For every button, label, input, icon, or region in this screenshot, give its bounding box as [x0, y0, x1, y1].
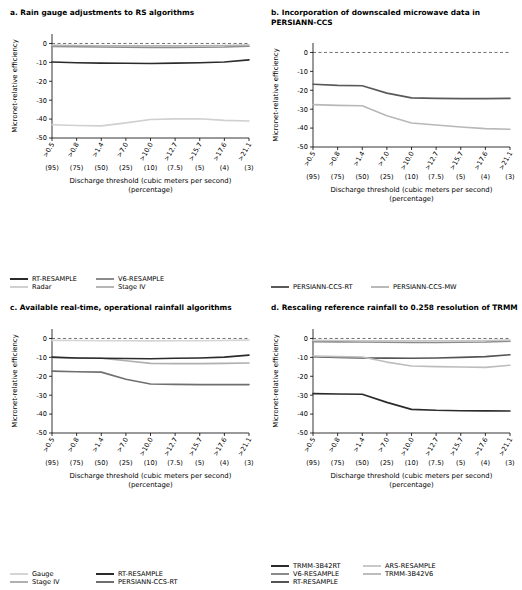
x-tick-label: >10.0 [399, 150, 416, 172]
y-tick-label: -50 [36, 429, 47, 437]
x-tick-sublabel: (3) [244, 164, 253, 172]
x-tick-label: >1.4 [91, 141, 106, 159]
y-tick-label: -50 [297, 429, 308, 437]
x-tick-label: >10.0 [138, 436, 155, 458]
legend-item: RT-RESAMPLE [96, 570, 181, 578]
y-tick-label: 0 [304, 334, 308, 342]
legend-item: Stage IV [96, 283, 166, 291]
panel-b-svg: 0-10-20-30-40-50Micronet-relative effici… [267, 31, 516, 221]
y-tick-label: -10 [297, 68, 308, 76]
legend-item: ARS-RESAMPLE [363, 562, 443, 570]
x-tick-label: >7.0 [376, 150, 391, 168]
x-tick-sublabel: (7.5) [167, 459, 183, 467]
legend-label: Radar [32, 283, 51, 291]
series-line-persiann-ccs-mw [313, 105, 510, 130]
x-tick-label: >21.1 [236, 141, 253, 163]
x-tick-sublabel: (4) [481, 459, 490, 467]
x-tick-sublabel: (7.5) [167, 164, 183, 172]
y-tick-label: -20 [36, 77, 47, 85]
series-line-trmm-3b42rt [313, 393, 510, 410]
x-tick-label: >0.8 [66, 436, 81, 454]
y-tick-label: -20 [297, 87, 308, 95]
x-tick-sublabel: (75) [70, 164, 84, 172]
x-tick-sublabel: (50) [94, 164, 108, 172]
series-line-stage-iv [52, 45, 249, 46]
x-tick-sublabel: (50) [355, 459, 369, 467]
series-line-gauge [52, 340, 249, 341]
x-tick-label: >15.7 [448, 150, 465, 172]
y-tick-label: -40 [297, 125, 308, 133]
legend-item: PERSIANN-CCS-RT [96, 578, 181, 586]
panel-d-legend: TRMM-3B42RTV6-RESAMPLERT-RESAMPLEARS-RES… [271, 562, 515, 586]
x-tick-sublabel: (10) [144, 459, 158, 467]
x-tick-sublabel: (50) [355, 173, 369, 181]
legend-item: V6-RESAMPLE [96, 275, 166, 283]
y-tick-label: -30 [297, 106, 308, 114]
panel-a: a. Rain gauge adjustments to RS algorith… [0, 0, 261, 295]
y-tick-label: 0 [43, 39, 47, 47]
x-tick-sublabel: (95) [45, 459, 59, 467]
x-tick-label: >12.7 [423, 150, 440, 172]
series-line-ars-resample [313, 340, 510, 341]
legend-swatch [363, 573, 381, 576]
x-tick-label: >21.1 [236, 436, 253, 458]
y-tick-label: -40 [297, 410, 308, 418]
legend-swatch [96, 581, 114, 584]
y-tick-label: -40 [36, 410, 47, 418]
x-tick-label: >1.4 [352, 436, 367, 454]
y-tick-label: -30 [36, 96, 47, 104]
panel-c-plot: 0-10-20-30-40-50Micronet-relative effici… [6, 317, 255, 507]
x-axis-title-line2: (percentage) [128, 186, 173, 194]
x-axis-title-line1: Discharge threshold (cubic meters per se… [70, 472, 232, 480]
panel-a-legend: RT-RESAMPLERadarV6-RESAMPLEStage IV [10, 275, 254, 291]
x-tick-sublabel: (75) [70, 459, 84, 467]
panel-d-svg: 0-10-20-30-40-50Micronet-relative effici… [267, 317, 516, 507]
x-tick-sublabel: (25) [119, 164, 133, 172]
panel-b-legend: PERSIANN-CCS-RTPERSIANN-CCS-MW [271, 283, 515, 291]
x-tick-sublabel: (3) [244, 459, 253, 467]
legend-label: TRMM-3B42V6 [385, 570, 433, 578]
panel-a-plot: 0-10-20-30-40-50Micronet-relative effici… [6, 22, 255, 212]
panel-c: c. Available real-time, operational rain… [0, 295, 261, 590]
x-tick-label: >0.5 [41, 436, 56, 454]
series-line-rt-resample [52, 60, 249, 64]
panel-d: d. Rescaling reference rainfall to 0.258… [261, 295, 522, 590]
legend-swatch [10, 581, 28, 584]
x-tick-label: >7.0 [115, 141, 130, 159]
x-tick-label: >0.8 [327, 150, 342, 168]
x-tick-sublabel: (75) [331, 173, 345, 181]
x-tick-label: >15.7 [187, 141, 204, 163]
legend-column: TRMM-3B42RTV6-RESAMPLERT-RESAMPLE [271, 562, 363, 586]
x-axis-title-line2: (percentage) [128, 481, 173, 489]
legend-item: RT-RESAMPLE [271, 578, 353, 586]
y-tick-label: -20 [297, 372, 308, 380]
y-tick-label: -10 [36, 58, 47, 66]
x-tick-sublabel: (50) [94, 459, 108, 467]
x-tick-sublabel: (7.5) [428, 173, 444, 181]
panel-b: b. Incorporation of downscaled microwave… [261, 0, 522, 295]
legend-label: PERSIANN-CCS-MW [393, 283, 457, 291]
legend-label: PERSIANN-CCS-RT [118, 578, 178, 586]
x-axis-title-line2: (percentage) [389, 195, 434, 203]
legend-label: V6-RESAMPLE [293, 570, 339, 578]
legend-swatch [96, 573, 114, 576]
x-tick-sublabel: (25) [119, 459, 133, 467]
legend-column: PERSIANN-CCS-RT [271, 283, 371, 291]
y-axis-title: Micronet-relative efficiency [11, 334, 19, 428]
legend-label: TRMM-3B42RT [293, 562, 341, 570]
x-tick-sublabel: (25) [380, 459, 394, 467]
panel-b-plot: 0-10-20-30-40-50Micronet-relative effici… [267, 31, 516, 221]
y-tick-label: 0 [43, 334, 47, 342]
legend-label: RT-RESAMPLE [32, 275, 77, 283]
legend-item: TRMM-3B42V6 [363, 570, 443, 578]
x-tick-label: >12.7 [423, 436, 440, 458]
x-axis-title-line2: (percentage) [389, 481, 434, 489]
x-axis-title-line1: Discharge threshold (cubic meters per se… [70, 177, 232, 185]
y-axis-title: Micronet-relative efficiency [272, 334, 280, 428]
panel-b-title: b. Incorporation of downscaled microwave… [271, 8, 519, 27]
panel-c-legend: GaugeStage IVRT-RESAMPLEPERSIANN-CCS-RT [10, 570, 254, 586]
panel-d-plot: 0-10-20-30-40-50Micronet-relative effici… [267, 317, 516, 507]
x-tick-sublabel: (4) [220, 164, 229, 172]
legend-label: ARS-RESAMPLE [385, 562, 436, 570]
x-tick-sublabel: (5) [456, 173, 465, 181]
